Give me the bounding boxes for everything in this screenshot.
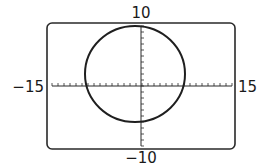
circle-curve <box>85 26 185 122</box>
calculator-graph: 10 −10 −15 15 <box>0 0 260 164</box>
x-min-label: −15 <box>12 78 44 96</box>
x-max-label: 15 <box>238 78 257 96</box>
y-min-label: −10 <box>125 149 157 164</box>
y-axis-ticks <box>141 26 144 146</box>
y-max-label: 10 <box>131 4 150 22</box>
